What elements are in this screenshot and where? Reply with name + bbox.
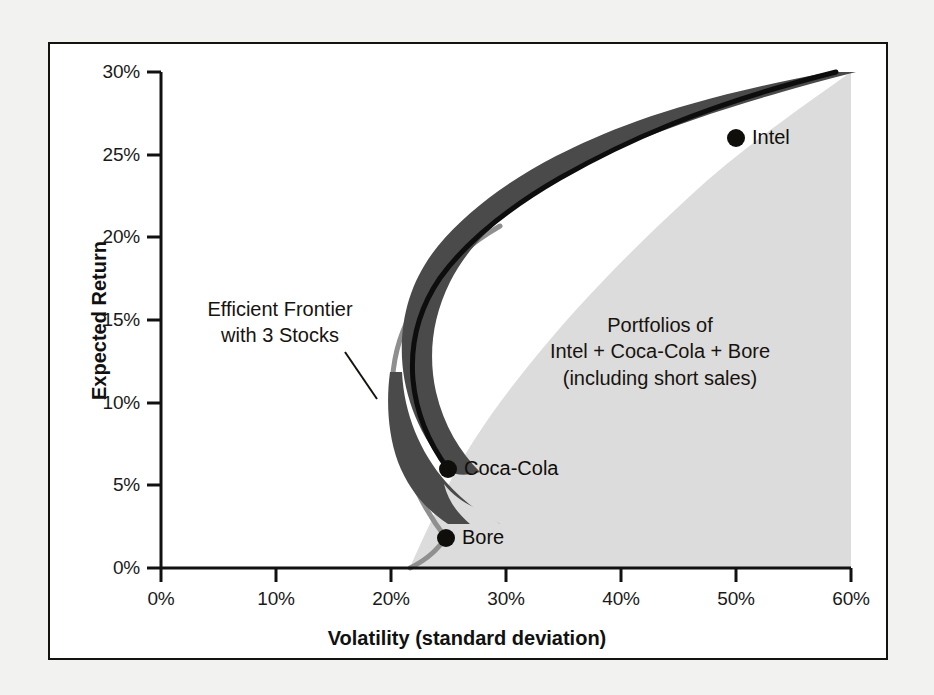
x-axis-title: Volatility (standard deviation) bbox=[0, 627, 934, 650]
annotation-portfolios: Portfolios of Intel + Coca-Cola + Bore (… bbox=[510, 312, 810, 391]
x-tick-label-40: 40% bbox=[581, 588, 661, 610]
data-label-intel: Intel bbox=[752, 126, 790, 149]
y-axis-title: Expected Return bbox=[88, 241, 111, 400]
y-tick-label-5: 5% bbox=[80, 474, 140, 496]
y-tick-label-0: 0% bbox=[80, 557, 140, 579]
y-tick-label-25: 25% bbox=[80, 144, 140, 166]
annotation-efficient-frontier-line-1: Efficient Frontier bbox=[190, 296, 370, 322]
x-tick-label-60: 60% bbox=[811, 588, 891, 610]
x-tick-label-30: 30% bbox=[466, 588, 546, 610]
x-tick-label-10: 10% bbox=[236, 588, 316, 610]
y-tick-label-30: 30% bbox=[80, 61, 140, 83]
annotation-portfolios-line-2: Intel + Coca-Cola + Bore bbox=[510, 338, 810, 364]
x-tick-label-50: 50% bbox=[696, 588, 776, 610]
annotation-efficient-frontier-line-2: with 3 Stocks bbox=[190, 322, 370, 348]
x-tick-label-0: 0% bbox=[121, 588, 201, 610]
annotation-portfolios-line-3: (including short sales) bbox=[510, 365, 810, 391]
annotation-portfolios-line-1: Portfolios of bbox=[510, 312, 810, 338]
data-label-bore: Bore bbox=[462, 526, 504, 549]
data-label-coca-cola: Coca-Cola bbox=[464, 457, 558, 480]
x-tick-label-20: 20% bbox=[351, 588, 431, 610]
annotation-efficient-frontier: Efficient Frontier with 3 Stocks bbox=[190, 296, 370, 349]
